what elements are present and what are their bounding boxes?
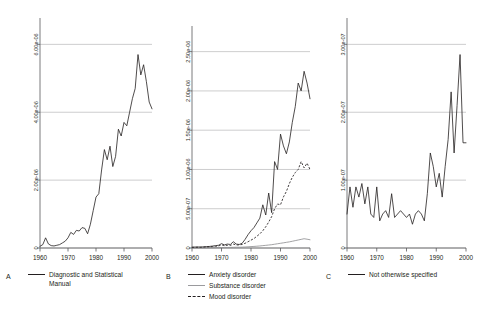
legend-item: Not otherwise specified (348, 270, 437, 279)
x-tick-label: 1970 (370, 254, 385, 261)
panel-b-letter: B (166, 273, 171, 280)
panel-c-letter: C (326, 273, 331, 280)
y-tick-label: 0 (185, 246, 191, 249)
y-tick-label: 3.00e-07 (340, 33, 346, 55)
legend-item: Diagnostic and Statistical Manual (28, 270, 123, 288)
x-tick-label: 1980 (244, 254, 259, 261)
x-tick-label: 1970 (61, 254, 76, 261)
panel-c-legend: Not otherwise specified (348, 270, 437, 281)
panel-c-plot: 3.00e-072.00e-071.00e-070196019701980199… (320, 0, 488, 262)
legend-swatch-solid-icon (188, 270, 205, 279)
series-line (192, 71, 310, 247)
x-tick-label: 2000 (459, 254, 474, 261)
series-line (347, 55, 466, 225)
x-tick-label: 1990 (273, 254, 288, 261)
y-tick-label: 0 (340, 246, 346, 249)
x-tick-label: 1960 (33, 254, 48, 261)
panel-c: 3.00e-072.00e-071.00e-070196019701980199… (320, 0, 488, 315)
legend-swatch-solid-icon (348, 270, 365, 279)
legend-item: Substance disorder (188, 281, 266, 290)
legend-item: Mood disorder (188, 292, 266, 301)
panel-a: 6.00e-064.00e-062.00e-060196019701980199… (0, 0, 160, 315)
x-tick-label: 1990 (429, 254, 444, 261)
y-tick-label: 6.00e-06 (33, 33, 39, 55)
y-tick-label: 2.50e-06 (185, 41, 191, 63)
legend-swatch-light-icon (188, 281, 205, 290)
y-tick-label: 1.50e-06 (185, 119, 191, 141)
series-line (192, 162, 310, 248)
x-tick-label: 1990 (117, 254, 132, 261)
y-tick-label: 5.00e-07 (185, 198, 191, 220)
legend-label: Not otherwise specified (369, 270, 437, 279)
y-tick-label: 2.00e-07 (340, 101, 346, 123)
legend-label: Substance disorder (209, 281, 266, 290)
y-tick-label: 2.00e-06 (185, 80, 191, 102)
legend-label: Diagnostic and Statistical Manual (49, 270, 123, 288)
y-tick-label: 1.00e-06 (185, 158, 191, 180)
x-tick-label: 2000 (303, 254, 318, 261)
panel-b: 2.50e-062.00e-061.50e-061.00e-065.00e-07… (160, 0, 320, 315)
x-tick-label: 2000 (145, 254, 160, 261)
x-tick-label: 1980 (89, 254, 104, 261)
panel-b-legend: Anxiety disorder Substance disorder Mood… (188, 270, 266, 303)
panel-a-legend: Diagnostic and Statistical Manual (28, 270, 123, 290)
y-tick-label: 4.00e-06 (33, 101, 39, 123)
legend-label: Anxiety disorder (209, 270, 256, 279)
figure-three-panel-line-charts: 6.00e-064.00e-062.00e-060196019701980199… (0, 0, 488, 315)
series-line (40, 55, 152, 247)
x-tick-label: 1980 (399, 254, 414, 261)
x-tick-label: 1960 (340, 254, 355, 261)
x-tick-label: 1970 (214, 254, 229, 261)
legend-item: Anxiety disorder (188, 270, 266, 279)
panel-a-letter: A (6, 273, 11, 280)
x-tick-label: 1960 (185, 254, 200, 261)
y-tick-label: 0 (33, 246, 39, 249)
panel-b-plot: 2.50e-062.00e-061.50e-061.00e-065.00e-07… (160, 0, 320, 262)
panel-a-plot: 6.00e-064.00e-062.00e-060196019701980199… (0, 0, 160, 262)
legend-label: Mood disorder (209, 292, 251, 301)
legend-swatch-solid-icon (28, 270, 45, 279)
y-tick-label: 2.00e-06 (33, 169, 39, 191)
legend-swatch-dashed-icon (188, 292, 205, 301)
y-tick-label: 1.00e-07 (340, 169, 346, 191)
